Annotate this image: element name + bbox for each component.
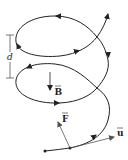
svg-text:B: B (55, 87, 63, 97)
trajectory (16, 14, 110, 151)
trajectory-lower-loop (16, 64, 97, 103)
svg-text:u: u (117, 128, 124, 138)
trajectory-top (97, 14, 108, 37)
spacing-label: d (7, 52, 13, 62)
svg-text:F: F (62, 114, 69, 124)
trajectory-lower (45, 88, 110, 151)
trajectory-middle (97, 37, 108, 88)
force-vector (58, 122, 70, 148)
velocity-label: u (117, 128, 124, 138)
helix-diagram: d B F u (0, 0, 128, 160)
velocity-vector (70, 137, 114, 148)
force-label: F (62, 113, 69, 124)
field-label: B (55, 86, 63, 97)
trajectory-upper-loop (16, 16, 97, 56)
direction-arrow-icon (108, 52, 109, 57)
start-point (44, 150, 47, 153)
